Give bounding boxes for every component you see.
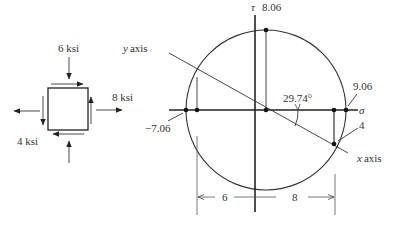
label-tau-max: 8.06	[262, 1, 282, 13]
element-square	[48, 88, 88, 130]
rotated-axes-line	[169, 53, 348, 153]
mohr-circle-figure: 6 ksi 8 ksi 4 ksi σ τ 8.06 yaxis xaxis 4	[0, 0, 395, 228]
label-dim-left: 6	[222, 191, 228, 203]
point-sigma-x	[332, 108, 337, 113]
leader-sigma-max	[348, 94, 357, 106]
leader-sigma-min	[168, 113, 183, 121]
stress-element: 6 ksi 8 ksi 4 ksi	[14, 42, 133, 163]
label-dim-right: 8	[292, 191, 298, 203]
mohr-circle-diagram: σ τ 8.06 yaxis xaxis 4 −7.06 9.06 29.74°	[122, 1, 382, 215]
leader-x-point	[338, 128, 358, 141]
label-x-axis: xaxis	[356, 152, 382, 164]
label-y-axis: yaxis	[122, 42, 148, 54]
point-x	[332, 142, 337, 147]
point-tau-max	[264, 28, 269, 33]
tau-axis-label: τ	[251, 1, 256, 13]
label-sigma-min: −7.06	[145, 122, 171, 134]
label-sigma-max: 9.06	[353, 80, 373, 92]
label-x-point-tau: 4	[359, 119, 365, 131]
label-angle: 29.74°	[283, 92, 312, 104]
label-right-stress: 8 ksi	[112, 91, 133, 103]
point-sigma-max	[344, 108, 349, 113]
point-sigma-min	[184, 108, 189, 113]
label-shear-stress: 4 ksi	[17, 135, 38, 147]
label-top-stress: 6 ksi	[58, 42, 79, 54]
point-sigma-y	[195, 108, 200, 113]
sigma-axis-label: σ	[359, 104, 365, 116]
point-center	[264, 108, 269, 113]
